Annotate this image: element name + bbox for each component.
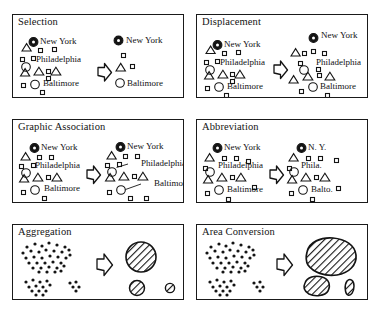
- dot-cluster-small: [208, 278, 235, 296]
- map-label-new-york: New York: [224, 40, 261, 49]
- map-label-baltimore-after: Baltimore: [154, 179, 184, 188]
- panel-area-conversion: Area Conversion: [196, 224, 368, 300]
- map-label-baltimore-after: Baltimore: [320, 82, 356, 91]
- dot-cluster-large: [205, 241, 255, 273]
- map-label-new-york-after: New York: [321, 31, 358, 40]
- map-label-baltimore: Baltimore: [44, 184, 80, 193]
- map-label-phila-abbrev: Phila.: [301, 161, 322, 170]
- map-label-philadelphia: Philadelphia: [218, 161, 263, 170]
- map-label-philadelphia-after: Philadelphia: [141, 159, 184, 168]
- map-label-new-york-after: New York: [127, 142, 164, 151]
- panel-abbreviation-stage: New York Philadelphia Baltimore N. Y. Ph…: [197, 120, 367, 202]
- map-label-new-york-after: New York: [126, 36, 163, 45]
- map-label-baltimore: Baltimore: [43, 79, 79, 88]
- hatched-blob-sliver: [345, 280, 354, 296]
- panel-graphic-association-stage: New York Philadelphia Baltimore New York…: [13, 120, 183, 202]
- generalization-operators-figure: Selection: [0, 0, 378, 312]
- dot-cluster-tiny: [252, 280, 264, 292]
- map-label-philadelphia: Philadelphia: [35, 161, 80, 170]
- hatched-blob-small: [304, 276, 329, 295]
- area-conversion-diagram: [197, 225, 368, 300]
- panel-selection: Selection: [12, 14, 184, 98]
- right-block-arrow: [277, 254, 293, 276]
- map-label-baltimore: Baltimore: [227, 82, 263, 91]
- dot-cluster-large: [21, 241, 71, 273]
- panel-area-conversion-stage: [197, 225, 367, 299]
- panel-abbreviation: Abbreviation: [196, 119, 368, 203]
- panel-displacement: Displacement: [196, 14, 368, 98]
- dot-cluster-small: [24, 278, 51, 296]
- hatched-blob-large: [306, 238, 356, 276]
- dot-cluster-tiny: [68, 280, 80, 292]
- panel-selection-stage: New York Philadelphia Baltimore New York…: [13, 15, 183, 97]
- panel-aggregation: Aggregation: [12, 224, 184, 300]
- hatched-circle-large: [126, 242, 156, 272]
- map-label-baltimore-after: Baltimore: [127, 79, 163, 88]
- hatched-circle-small: [130, 281, 145, 296]
- map-label-ny-abbrev: N. Y.: [308, 143, 326, 152]
- map-label-philadelphia-after: Philadelphia: [316, 58, 361, 67]
- map-label-philadelphia: Philadelphia: [220, 58, 265, 67]
- hatched-circle-tiny: [165, 283, 174, 292]
- map-label-new-york: New York: [41, 143, 78, 152]
- map-label-philadelphia: Philadelphia: [36, 55, 81, 64]
- map-label-baltimore: Baltimore: [227, 185, 263, 194]
- right-block-arrow: [97, 254, 113, 276]
- panel-displacement-stage: New York Philadelphia Baltimore New York…: [197, 15, 367, 97]
- aggregation-diagram: [13, 225, 184, 300]
- panel-graphic-association: Graphic Association: [12, 119, 184, 203]
- map-label-new-york: New York: [40, 37, 77, 46]
- map-label-balto-abbrev: Balto.: [311, 185, 333, 194]
- map-label-new-york: New York: [224, 143, 261, 152]
- panel-aggregation-stage: [13, 225, 183, 299]
